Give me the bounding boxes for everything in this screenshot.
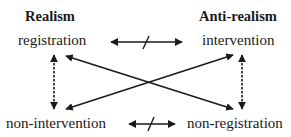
relation-arrows xyxy=(0,0,291,137)
negated-arrow-bottom xyxy=(129,117,175,131)
negated-arrow-top xyxy=(111,36,182,49)
